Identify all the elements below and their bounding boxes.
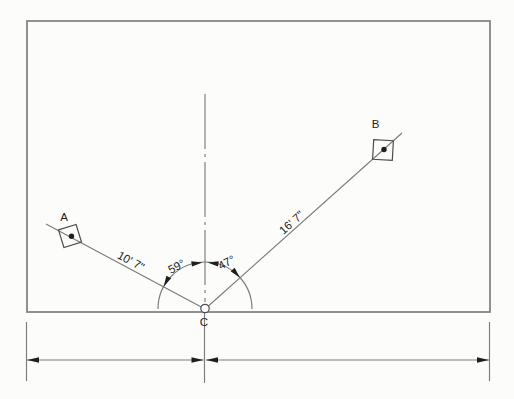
station-c-marker — [201, 304, 209, 312]
boundary-rectangle — [27, 21, 490, 312]
station-b-label: B — [372, 118, 380, 130]
station-a-point — [69, 234, 74, 239]
survey-diagram: A B C 10' 7" 16' 7" 59° 47° — [0, 0, 514, 399]
arc-arrowhead-center-left — [191, 260, 203, 267]
station-b-point — [381, 147, 386, 152]
dimension-arrowhead-center-left — [192, 357, 204, 362]
dimension-arrowhead-far-left — [27, 357, 39, 362]
dimension-arrowhead-center-right — [206, 357, 218, 362]
station-c-label: C — [200, 316, 208, 328]
survey-layout-figure: A B C 10' 7" 16' 7" 59° 47° — [0, 0, 514, 399]
dimension-arrowhead-far-right — [477, 357, 489, 362]
angle-left-label: 59° — [166, 257, 187, 276]
station-a-label: A — [60, 211, 68, 223]
